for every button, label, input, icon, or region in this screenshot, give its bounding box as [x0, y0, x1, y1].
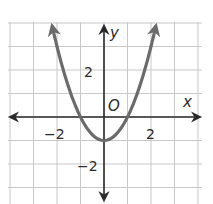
coordinate-graph: y x O −2 2 2 −2	[0, 0, 213, 204]
grid	[8, 22, 202, 204]
x-tick-label-pos2: 2	[146, 126, 155, 142]
y-axis-label: y	[109, 24, 120, 42]
x-tick-label-neg2: −2	[44, 126, 65, 142]
x-axis-label: x	[182, 93, 192, 111]
origin-label: O	[108, 97, 120, 115]
y-tick-label-pos2: 2	[84, 64, 93, 80]
y-tick-label-neg2: −2	[77, 158, 98, 174]
